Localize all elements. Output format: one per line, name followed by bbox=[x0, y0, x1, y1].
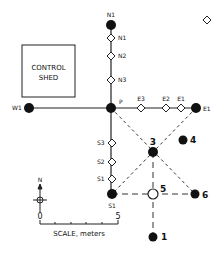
label-e3: E3 bbox=[137, 95, 145, 102]
label-node-1: 1 bbox=[161, 232, 167, 242]
control-shed-label-2: SHED bbox=[39, 74, 59, 82]
label-w1: W1 bbox=[12, 104, 22, 111]
node-4 bbox=[179, 136, 188, 145]
diamond-s3-icon bbox=[108, 139, 116, 147]
diamond-n1-icon bbox=[107, 34, 115, 42]
diamond-n2-icon bbox=[107, 52, 115, 60]
node-1 bbox=[149, 233, 158, 242]
node-n1 bbox=[106, 20, 116, 30]
control-shed-label-1: CONTROL bbox=[31, 64, 65, 72]
site-diagram: CONTROL SHED N1 N1 N2 N3 P W1 bbox=[0, 0, 224, 257]
label-n2: N2 bbox=[118, 52, 126, 59]
label-n1: N1 bbox=[118, 34, 126, 41]
scale-five-label: 5 bbox=[115, 212, 120, 221]
label-s1-diamond: S1 bbox=[97, 175, 105, 182]
label-e1: E1 bbox=[203, 105, 211, 112]
label-node-4: 4 bbox=[190, 135, 196, 145]
north-arrow-icon bbox=[33, 184, 47, 212]
scale-zero-label: 0 bbox=[37, 212, 42, 221]
scale-label: SCALE, meters bbox=[53, 230, 105, 238]
label-node-5: 5 bbox=[160, 184, 166, 194]
scale-bar bbox=[40, 220, 118, 224]
label-node-3: 3 bbox=[150, 137, 156, 147]
diamond-e3-icon bbox=[137, 104, 145, 112]
label-n3: N3 bbox=[118, 76, 126, 83]
diamond-e1-icon bbox=[177, 104, 185, 112]
label-node-6: 6 bbox=[202, 190, 208, 200]
label-s2: S2 bbox=[97, 158, 105, 165]
north-label: N bbox=[38, 176, 43, 183]
diamond-s2-icon bbox=[108, 158, 116, 166]
node-6 bbox=[191, 190, 200, 199]
label-p: P bbox=[119, 98, 123, 105]
node-3 bbox=[148, 147, 158, 157]
label-s3: S3 bbox=[97, 139, 105, 146]
diamond-e2-icon bbox=[162, 104, 170, 112]
label-e2: E2 bbox=[162, 95, 170, 102]
label-s1: S1 bbox=[108, 202, 116, 209]
node-w1 bbox=[24, 103, 34, 113]
diamond-n3-icon bbox=[107, 76, 115, 84]
diamond-legend-icon bbox=[203, 16, 211, 24]
dashed-connections bbox=[111, 108, 196, 237]
node-5 bbox=[148, 189, 158, 199]
label-e1-diamond: E1 bbox=[177, 95, 185, 102]
node-p bbox=[106, 103, 116, 113]
diamond-s1-icon bbox=[108, 175, 116, 183]
node-e1 bbox=[191, 103, 201, 113]
node-s1 bbox=[107, 189, 117, 199]
label-n1-top: N1 bbox=[107, 11, 115, 18]
